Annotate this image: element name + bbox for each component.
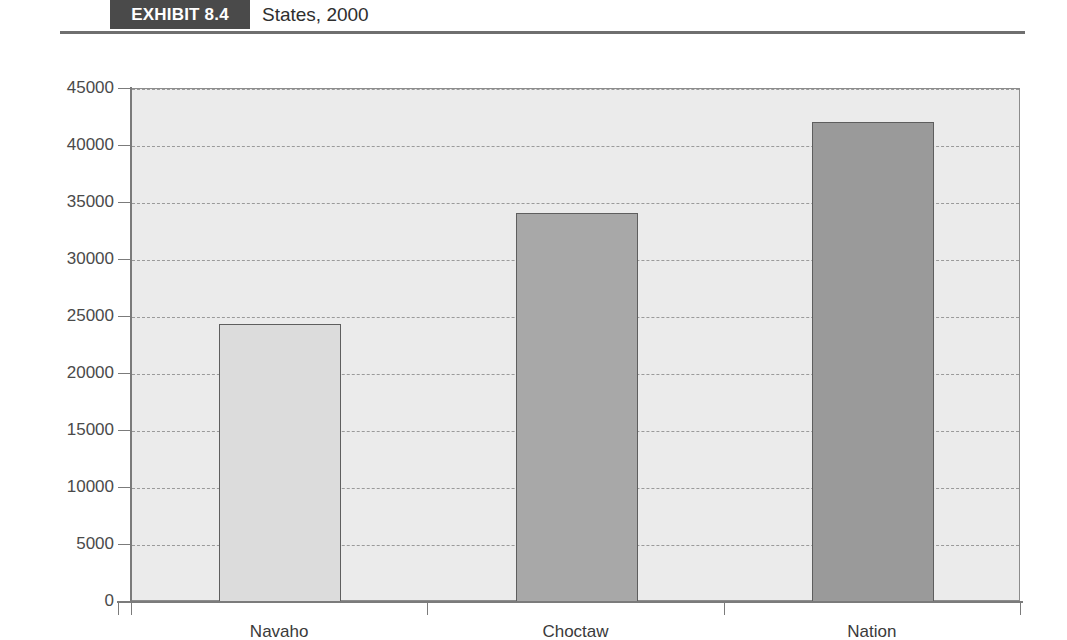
header-divider bbox=[60, 31, 1025, 34]
bar-chart: 0500010000150002000025000300003500040000… bbox=[0, 40, 1067, 640]
bar-nation bbox=[812, 122, 934, 602]
y-axis-tick-label: 10000 bbox=[22, 478, 114, 495]
y-axis-tick bbox=[118, 88, 131, 89]
bar-choctaw bbox=[516, 213, 638, 602]
y-axis-tick bbox=[118, 487, 131, 488]
y-axis-tick-label: 15000 bbox=[22, 421, 114, 438]
x-axis-tick bbox=[1020, 602, 1021, 615]
x-axis-tick bbox=[118, 602, 119, 615]
y-axis-tick-labels: 0500010000150002000025000300003500040000… bbox=[18, 40, 114, 640]
y-axis-tick bbox=[118, 373, 131, 374]
y-axis-tick-label: 45000 bbox=[22, 79, 114, 96]
x-axis-tick-label: Navaho bbox=[250, 622, 309, 640]
y-axis-line bbox=[130, 87, 132, 602]
y-axis-tick-label: 35000 bbox=[22, 193, 114, 210]
x-axis-tick-label: Choctaw bbox=[542, 622, 608, 640]
y-axis-tick bbox=[118, 259, 131, 260]
exhibit-badge-label: EXHIBIT 8.4 bbox=[131, 5, 229, 25]
y-axis-tick-label: 5000 bbox=[22, 535, 114, 552]
x-axis-tick bbox=[131, 602, 132, 615]
gridline bbox=[132, 89, 1019, 90]
y-axis-tick bbox=[118, 544, 131, 545]
y-axis-tick bbox=[118, 601, 131, 602]
y-axis-tick bbox=[118, 316, 131, 317]
y-axis-tick-label: 40000 bbox=[22, 136, 114, 153]
y-axis-tick bbox=[118, 430, 131, 431]
x-axis-tick bbox=[427, 602, 428, 615]
exhibit-badge: EXHIBIT 8.4 bbox=[110, 0, 250, 29]
bar-navaho bbox=[219, 324, 341, 602]
y-axis-tick bbox=[118, 202, 131, 203]
y-axis-tick-label: 30000 bbox=[22, 250, 114, 267]
plot-area bbox=[131, 88, 1020, 601]
y-axis-tick-label: 25000 bbox=[22, 307, 114, 324]
y-axis-tick-label: 20000 bbox=[22, 364, 114, 381]
y-axis-tick bbox=[118, 145, 131, 146]
exhibit-header: EXHIBIT 8.4 States, 2000 bbox=[0, 0, 1067, 40]
y-axis-tick-label: 0 bbox=[22, 592, 114, 609]
page-title: States, 2000 bbox=[262, 1, 369, 29]
x-axis-tick-label: Nation bbox=[847, 622, 896, 640]
x-axis-tick bbox=[724, 602, 725, 615]
x-axis-line bbox=[117, 601, 1023, 603]
